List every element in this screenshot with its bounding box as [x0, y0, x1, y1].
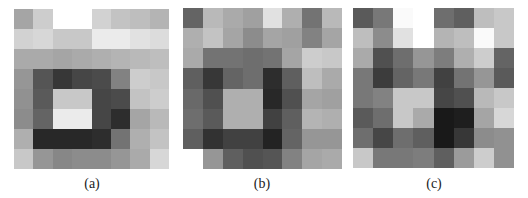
heatmap-cell [130, 129, 149, 149]
heatmap-cell [33, 109, 52, 129]
heatmap-cell [263, 149, 283, 169]
heatmap-cell [373, 128, 393, 148]
heatmap-cell [53, 49, 72, 69]
heatmap-cell [72, 29, 91, 49]
heatmap-cell [14, 9, 33, 29]
heatmap-cell [183, 48, 203, 68]
heatmap-cell [33, 89, 52, 109]
heatmap-cell [53, 29, 72, 49]
heatmap-cell [92, 89, 111, 109]
heatmap-cell [322, 129, 342, 149]
heatmap-cell [494, 88, 514, 108]
heatmap-cell [413, 108, 433, 128]
heatmap-cell [243, 48, 263, 68]
heatmap-cell [150, 149, 169, 169]
heatmap-cell [393, 28, 413, 48]
heatmap-cell [203, 89, 223, 109]
heatmap-cell [434, 148, 454, 168]
heatmap-cell [494, 28, 514, 48]
heatmap-cell [223, 89, 243, 109]
heatmap-cell [203, 28, 223, 48]
heatmap-cell [282, 68, 302, 88]
heatmap-cell [454, 128, 474, 148]
heatmap-cell [393, 48, 413, 68]
heatmap-cell [282, 129, 302, 149]
heatmap-cell [92, 49, 111, 69]
heatmap-cell [111, 129, 130, 149]
heatmap-cell [33, 149, 52, 169]
heatmap-cell [302, 48, 322, 68]
heatmap-cell [183, 68, 203, 88]
heatmap-cell [92, 129, 111, 149]
heatmap-cell [322, 89, 342, 109]
heatmap-cell [282, 48, 302, 68]
heatmap-cell [454, 48, 474, 68]
heatmap-cell [92, 9, 111, 29]
heatmap-cell [282, 109, 302, 129]
heatmap-cell [92, 149, 111, 169]
heatmap-cell [92, 109, 111, 129]
heatmap-cell [72, 49, 91, 69]
heatmap-cell [474, 148, 494, 168]
heatmap-cell [53, 149, 72, 169]
heatmap-cell [393, 108, 413, 128]
heatmap-cell [72, 109, 91, 129]
heatmap-cell [454, 108, 474, 128]
heatmap-cell [92, 29, 111, 49]
heatmap-cell [434, 28, 454, 48]
heatmap-cell [282, 149, 302, 169]
heatmap-cell [393, 128, 413, 148]
heatmap-cell [373, 48, 393, 68]
heatmap-cell [373, 8, 393, 28]
heatmap-cell [203, 8, 223, 28]
heatmap-cell [33, 129, 52, 149]
heatmap-cell [302, 109, 322, 129]
heatmap-cell [434, 48, 454, 68]
heatmap-grid-b [183, 8, 342, 169]
heatmap-cell [454, 28, 474, 48]
heatmap-cell [322, 149, 342, 169]
heatmap-cell [111, 9, 130, 29]
heatmap-cell [434, 108, 454, 128]
heatmap-cell [223, 48, 243, 68]
heatmap-cell [302, 28, 322, 48]
heatmap-cell [494, 8, 514, 28]
heatmap-cell [494, 128, 514, 148]
heatmap-cell [223, 149, 243, 169]
heatmap-cell [282, 8, 302, 28]
heatmap-cell [474, 68, 494, 88]
heatmap-cell [243, 109, 263, 129]
heatmap-cell [14, 109, 33, 129]
heatmap-cell [243, 28, 263, 48]
heatmap-cell [33, 29, 52, 49]
heatmap-cell [494, 68, 514, 88]
heatmap-cell [322, 109, 342, 129]
heatmap-cell [53, 89, 72, 109]
heatmap-cell [111, 29, 130, 49]
heatmap-cell [302, 149, 322, 169]
heatmap-cell [223, 8, 243, 28]
heatmap-cell [263, 89, 283, 109]
heatmap-cell [72, 89, 91, 109]
heatmap-cell [494, 148, 514, 168]
heatmap-cell [282, 89, 302, 109]
heatmap-cell [302, 68, 322, 88]
heatmap-cell [203, 149, 223, 169]
heatmap-cell [53, 109, 72, 129]
heatmap-cell [263, 8, 283, 28]
heatmap-cell [243, 149, 263, 169]
heatmap-cell [373, 88, 393, 108]
heatmap-cell [14, 89, 33, 109]
heatmap-cell [302, 129, 322, 149]
heatmap-cell [183, 28, 203, 48]
heatmap-grid-a [14, 9, 169, 169]
figure-panel-a: (a) [0, 0, 176, 198]
heatmap-cell [14, 49, 33, 69]
heatmap-cell [353, 68, 373, 88]
heatmap-cell [130, 89, 149, 109]
heatmap-cell [353, 8, 373, 28]
heatmap-cell [302, 89, 322, 109]
heatmap-cell [353, 128, 373, 148]
heatmap-cell [223, 68, 243, 88]
heatmap-cell [130, 109, 149, 129]
